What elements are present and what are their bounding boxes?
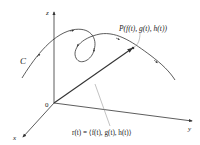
- vector-label: r(t) = ⟨f(t), g(t), h(t)⟩: [72, 129, 132, 137]
- x-axis: [23, 103, 54, 137]
- curve-label: C: [20, 56, 27, 66]
- point-label: P(f(t), g(t), h(t)): [118, 24, 167, 33]
- space-curve-diagram: z x y 0 C P(f(t), g(t), h(t)) r(t) = ⟨f(…: [0, 0, 200, 145]
- y-axis-label: y: [187, 125, 192, 133]
- origin-label: 0: [45, 101, 49, 109]
- point-p: [132, 47, 135, 50]
- vector-label-leader: [95, 84, 110, 126]
- z-axis-label: z: [45, 9, 49, 17]
- x-axis-label: x: [12, 134, 17, 142]
- y-axis: [54, 103, 192, 121]
- position-vector: [54, 49, 132, 104]
- curve-arrow-icon: [116, 38, 119, 40]
